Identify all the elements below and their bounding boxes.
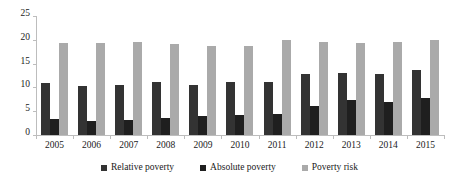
x-axis-tick-mark (110, 135, 111, 139)
bar-group (36, 16, 73, 135)
bar-risk[interactable] (282, 40, 291, 135)
x-axis-label: 2007 (110, 140, 147, 151)
legend-item-absolute[interactable]: Absolute poverty (200, 162, 276, 173)
bar-group-bars (110, 16, 147, 135)
bar-relative[interactable] (412, 70, 421, 135)
bar-group-bars (147, 16, 184, 135)
x-axis-label: 2005 (36, 140, 73, 151)
y-axis-tick-label: 5 (25, 104, 30, 114)
bar-group (73, 16, 110, 135)
bar-risk[interactable] (133, 42, 142, 135)
bar-group (333, 16, 370, 135)
bar-risk[interactable] (59, 43, 68, 135)
x-axis-tick-mark (184, 135, 185, 139)
bar-risk[interactable] (356, 43, 365, 135)
x-axis-label: 2008 (147, 140, 184, 151)
y-axis-tick-label: 15 (21, 57, 31, 67)
x-axis-tick-mark (36, 135, 37, 139)
plot-area (36, 16, 444, 135)
bar-absolute[interactable] (161, 118, 170, 135)
x-axis-label: 2011 (259, 140, 296, 151)
bar-risk[interactable] (96, 43, 105, 135)
bar-relative[interactable] (115, 85, 124, 135)
bar-relative[interactable] (264, 82, 273, 135)
y-axis-tick-label: 0 (25, 128, 30, 138)
y-axis-tick-label: 20 (21, 33, 31, 43)
bar-group (184, 16, 221, 135)
y-axis-tick-label: 10 (21, 80, 31, 90)
x-axis-tick-mark (296, 135, 297, 139)
bar-risk[interactable] (430, 40, 439, 135)
bar-group (407, 16, 444, 135)
bar-relative[interactable] (338, 73, 347, 135)
bar-relative[interactable] (375, 74, 384, 135)
bar-group-bars (36, 16, 73, 135)
legend-item-risk[interactable]: Poverty risk (302, 162, 358, 173)
bar-absolute[interactable] (235, 115, 244, 135)
bar-relative[interactable] (41, 83, 50, 135)
bar-absolute[interactable] (50, 119, 59, 135)
bar-group (370, 16, 407, 135)
x-axis-line (36, 135, 445, 136)
bar-absolute[interactable] (87, 121, 96, 135)
bar-risk[interactable] (244, 46, 253, 135)
legend-swatch-icon (302, 165, 308, 171)
legend-item-label: Absolute poverty (210, 162, 276, 173)
legend-item-label: Relative poverty (111, 162, 174, 173)
x-axis-label: 2014 (370, 140, 407, 151)
bar-relative[interactable] (189, 85, 198, 135)
bar-relative[interactable] (152, 82, 161, 135)
x-axis-tick-mark (259, 135, 260, 139)
bar-absolute[interactable] (124, 120, 133, 135)
bar-absolute[interactable] (384, 102, 393, 135)
bar-relative[interactable] (301, 74, 310, 135)
bar-risk[interactable] (393, 42, 402, 135)
bar-group-bars (333, 16, 370, 135)
bar-group (259, 16, 296, 135)
x-axis-label: 2015 (407, 140, 444, 151)
bar-absolute[interactable] (198, 116, 207, 135)
legend-swatch-icon (101, 165, 107, 171)
bar-group (296, 16, 333, 135)
legend-swatch-icon (200, 165, 206, 171)
x-axis-tick-mark (221, 135, 222, 139)
bar-risk[interactable] (319, 42, 328, 135)
bar-group-bars (73, 16, 110, 135)
bar-group (147, 16, 184, 135)
bar-absolute[interactable] (347, 100, 356, 135)
bar-risk[interactable] (207, 46, 216, 135)
x-axis-label: 2006 (73, 140, 110, 151)
x-axis-tick-mark (370, 135, 371, 139)
x-axis-tick-mark (407, 135, 408, 139)
bar-group-bars (184, 16, 221, 135)
bar-relative[interactable] (226, 82, 235, 135)
legend-item-label: Poverty risk (312, 162, 358, 173)
bar-absolute[interactable] (273, 114, 282, 135)
x-axis-label: 2013 (333, 140, 370, 151)
x-axis-label: 2009 (184, 140, 221, 151)
x-axis-label: 2012 (296, 140, 333, 151)
bar-group-bars (296, 16, 333, 135)
x-axis-tick-mark (333, 135, 334, 139)
bar-group (221, 16, 258, 135)
y-axis-tick-label: 25 (21, 9, 31, 19)
chart-legend: Relative povertyAbsolute povertyPoverty … (0, 162, 459, 173)
bar-relative[interactable] (78, 86, 87, 136)
x-axis-label: 2010 (221, 140, 258, 151)
legend-item-relative[interactable]: Relative poverty (101, 162, 174, 173)
bar-group-bars (259, 16, 296, 135)
x-axis-tick-mark (147, 135, 148, 139)
bar-group-bars (221, 16, 258, 135)
bar-risk[interactable] (170, 44, 179, 135)
bar-group-bars (407, 16, 444, 135)
bar-group-bars (370, 16, 407, 135)
x-axis-tick-mark (444, 135, 445, 139)
bar-chart: 0510152025 20052006200720082009201020112… (0, 0, 459, 183)
bar-absolute[interactable] (421, 98, 430, 135)
x-axis-tick-mark (73, 135, 74, 139)
bar-absolute[interactable] (310, 106, 319, 135)
bar-group (110, 16, 147, 135)
